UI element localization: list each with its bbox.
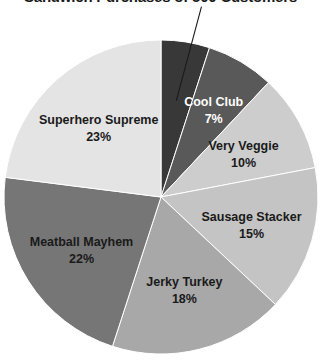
pie-svg-canvas: Bacon Bonanza5%Cool Club7%Very Veggie10%… [0, 0, 321, 363]
pie-chart: Sandwich Purchases of 500 Customers Baco… [0, 0, 321, 363]
slice-label-percent: 10% [231, 156, 256, 170]
slice-label-name: Superhero Supreme [39, 113, 159, 127]
slice-label-name: Sausage Stacker [201, 210, 301, 224]
slice-label-percent: 18% [172, 292, 197, 306]
slice-label-name: Cool Club [184, 95, 243, 109]
slice-label-percent: 7% [205, 112, 223, 126]
slice-label-percent: 5% [190, 0, 208, 3]
slice-label-percent: 15% [239, 227, 264, 241]
pie-slices-group [4, 40, 318, 354]
slice-label-name: Very Veggie [208, 139, 278, 153]
slice-label-percent: 23% [86, 130, 111, 144]
slice-label-percent: 22% [69, 252, 94, 266]
slice-label-name: Jerky Turkey [146, 275, 222, 289]
slice-label-name: Meatball Mayhem [30, 235, 134, 249]
